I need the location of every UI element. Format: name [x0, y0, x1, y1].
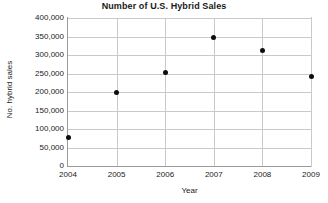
hybrid-sales-chart: Number of U.S. Hybrid Sales 050,000100,0…	[0, 0, 328, 203]
gridline-horizontal	[68, 55, 311, 56]
y-tick-label: 400,000	[2, 14, 64, 22]
y-tick-label: 50,000	[2, 144, 64, 152]
y-axis-title: No. hybrid sales	[5, 50, 14, 130]
data-point	[66, 135, 71, 140]
gridline-horizontal	[68, 37, 311, 38]
x-tick-label: 2004	[45, 170, 91, 179]
x-axis-title: Year	[68, 186, 311, 195]
plot-area	[68, 18, 311, 166]
gridline-vertical	[262, 18, 263, 166]
gridline-horizontal	[68, 148, 311, 149]
gridline-horizontal	[68, 129, 311, 130]
x-tick-label: 2008	[239, 170, 285, 179]
gridline-horizontal	[68, 111, 311, 112]
x-tick-label: 2009	[288, 170, 328, 179]
gridline-horizontal	[68, 92, 311, 93]
x-tick-label: 2006	[142, 170, 188, 179]
data-point	[309, 74, 314, 79]
x-tick-label: 2007	[191, 170, 237, 179]
gridline-horizontal	[68, 18, 311, 19]
x-axis-line	[67, 166, 312, 167]
data-point	[260, 48, 265, 53]
data-point	[211, 35, 216, 40]
gridline-vertical	[165, 18, 166, 166]
data-point	[114, 90, 119, 95]
plot-right-border	[311, 17, 312, 167]
x-tick-label: 2005	[94, 170, 140, 179]
y-tick-label: 350,000	[2, 33, 64, 41]
gridline-horizontal	[68, 74, 311, 75]
y-tick-label: 0	[2, 162, 64, 170]
gridline-vertical	[214, 18, 215, 166]
data-point	[163, 70, 168, 75]
